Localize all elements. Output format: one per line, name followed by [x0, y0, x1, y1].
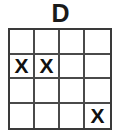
- grid-cell-r2c4[interactable]: [85, 55, 110, 80]
- cell-mark: X: [90, 105, 104, 126]
- grid-cell-r3c3[interactable]: [60, 79, 85, 104]
- cell-mark: X: [39, 55, 53, 76]
- cell-mark: X: [14, 55, 28, 76]
- grid-cell-r3c2[interactable]: [35, 79, 60, 104]
- grid-cell-r2c1[interactable]: X: [10, 55, 35, 80]
- grid-cell-r4c2[interactable]: [35, 104, 60, 129]
- grid-cell-r2c3[interactable]: [60, 55, 85, 80]
- figure-panel: D X X: [0, 0, 121, 134]
- grid-cell-r3c1[interactable]: [10, 79, 35, 104]
- grid-cell-r1c4[interactable]: [85, 30, 110, 55]
- grid-cell-r4c1[interactable]: [10, 104, 35, 129]
- grid-cell-r3c4[interactable]: [85, 79, 110, 104]
- grid-cell-r4c3[interactable]: [60, 104, 85, 129]
- grid-cell-r4c4[interactable]: X: [85, 104, 110, 129]
- grid-table: X X X: [8, 28, 112, 130]
- figure-title: D: [0, 0, 121, 27]
- grid-cell-r1c1[interactable]: [10, 30, 35, 55]
- grid-cell-r2c2[interactable]: X: [35, 55, 60, 80]
- grid-cell-r1c2[interactable]: [35, 30, 60, 55]
- grid-cell-r1c3[interactable]: [60, 30, 85, 55]
